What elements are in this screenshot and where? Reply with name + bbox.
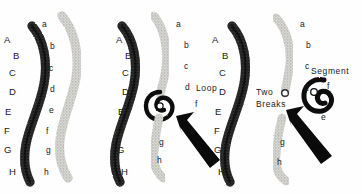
label-chromatid-D: D xyxy=(122,87,129,97)
label-chromatid-C: C xyxy=(219,68,226,78)
label-chromatid-d: d xyxy=(50,85,55,94)
caption-two-breaks: Two Breaks xyxy=(256,86,286,111)
caption-two-breaks-line-1: Two xyxy=(256,86,286,98)
light-chromatid-body xyxy=(59,16,77,178)
label-chromatid-d: d xyxy=(304,84,309,93)
panel-two-breaks-and-segment: A B C D E F G H a b c d f e g h Two Brea… xyxy=(206,0,362,194)
label-chromatid-f: f xyxy=(327,82,330,91)
caption-two-breaks-line-2: Breaks xyxy=(256,98,286,110)
label-chromatid-h: h xyxy=(277,158,282,167)
label-chromatid-g: g xyxy=(159,138,164,147)
label-chromatid-A: A xyxy=(212,35,219,45)
label-chromatid-C: C xyxy=(122,68,129,78)
label-chromatid-h: h xyxy=(44,168,49,177)
label-chromatid-a: a xyxy=(42,20,47,29)
label-chromatid-e: e xyxy=(321,113,326,122)
label-chromatid-E: E xyxy=(118,107,125,117)
dark-chromatid-body xyxy=(25,26,46,182)
label-chromatid-a: a xyxy=(176,20,181,29)
label-chromatid-b: b xyxy=(184,41,189,50)
label-chromatid-h: h xyxy=(157,156,162,165)
label-chromatid-H: H xyxy=(9,167,16,177)
label-chromatid-a: a xyxy=(300,20,305,29)
label-chromatid-f: f xyxy=(46,127,49,136)
label-chromatid-A: A xyxy=(116,35,123,45)
label-chromatid-H: H xyxy=(218,167,225,177)
label-chromatid-E: E xyxy=(5,107,12,117)
label-chromatid-G: G xyxy=(117,145,125,155)
label-chromatid-B: B xyxy=(222,51,229,61)
label-chromatid-H: H xyxy=(121,167,128,177)
label-chromatid-b: b xyxy=(306,41,311,50)
light-chromatid-lower-arm xyxy=(154,118,163,178)
label-chromatid-e: e xyxy=(190,127,195,136)
label-chromatid-b: b xyxy=(50,42,55,51)
label-chromatid-c: c xyxy=(184,62,188,71)
panel-intact-chromosome-pair: A B C D E F G H a b c d e f g h xyxy=(0,0,110,194)
label-chromatid-G: G xyxy=(4,145,12,155)
light-chromatid-upper-fragment xyxy=(276,18,290,96)
label-chromatid-g: g xyxy=(46,146,51,155)
light-chromatid-upper-arm xyxy=(154,16,167,94)
label-chromatid-d: d xyxy=(185,83,190,92)
label-chromatid-F: F xyxy=(214,126,220,136)
label-chromatid-B: B xyxy=(13,51,20,61)
label-chromatid-c: c xyxy=(49,64,53,73)
panel-loop-formation: A B C D E F G H a b c d f e g h Loop xyxy=(110,0,220,194)
label-chromatid-c: c xyxy=(305,62,309,71)
label-chromatid-C: C xyxy=(9,68,16,78)
label-chromatid-E: E xyxy=(215,107,222,117)
label-chromatid-g: g xyxy=(280,138,285,147)
label-chromatid-A: A xyxy=(4,35,11,45)
label-chromatid-f: f xyxy=(195,100,198,109)
label-chromatid-G: G xyxy=(214,145,222,155)
caption-segment: Segment xyxy=(311,67,349,76)
pointer-arrow xyxy=(282,104,336,166)
label-chromatid-F: F xyxy=(117,126,123,136)
label-chromatid-e: e xyxy=(49,106,54,115)
label-chromatid-F: F xyxy=(4,126,10,136)
panel-1-drawing xyxy=(0,0,110,194)
chromosome-figure: A B C D E F G H a b c d e f g h xyxy=(0,0,362,194)
label-chromatid-D: D xyxy=(9,87,16,97)
label-chromatid-D: D xyxy=(219,87,226,97)
label-chromatid-B: B xyxy=(125,51,132,61)
